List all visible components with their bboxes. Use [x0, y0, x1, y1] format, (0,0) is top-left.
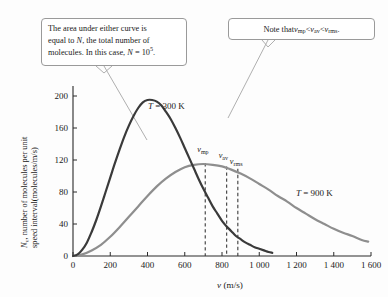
svg-text:vav: vav — [219, 151, 228, 161]
svg-text:0: 0 — [71, 260, 76, 270]
svg-text:Nv, number of molecules per un: Nv, number of molecules per unit — [20, 136, 30, 249]
series-label-900k: T = 900 K — [296, 188, 333, 198]
svg-text:200: 200 — [55, 91, 69, 101]
svg-text:160: 160 — [55, 123, 69, 133]
svg-text:400: 400 — [141, 260, 155, 270]
svg-text:200: 200 — [104, 260, 118, 270]
svg-text:600: 600 — [178, 260, 192, 270]
curve-300k — [73, 100, 272, 256]
svg-text:1 600: 1 600 — [361, 260, 382, 270]
svg-text:40: 40 — [59, 219, 69, 229]
svg-text:80: 80 — [59, 187, 69, 197]
svg-text:1 000: 1 000 — [249, 260, 270, 270]
y-axis-title: Nv, number of molecules per unitspeed in… — [20, 136, 39, 249]
svg-text:vmp: vmp — [197, 145, 208, 155]
speed-distribution-chart: 02004006008001 0001 2001 4001 600 040801… — [0, 0, 388, 297]
x-axis-title: v (m/s) — [217, 280, 243, 290]
callout-area-tail — [96, 66, 112, 73]
x-axis-ticks: 02004006008001 0001 2001 4001 600 — [71, 252, 382, 270]
figure-container: The area under either curve is equal to … — [0, 0, 388, 297]
svg-text:vrms: vrms — [230, 157, 243, 167]
svg-text:1 200: 1 200 — [286, 260, 307, 270]
svg-text:120: 120 — [55, 155, 69, 165]
callout-order-tail — [262, 40, 275, 47]
curve-900k — [73, 164, 368, 256]
svg-text:1 400: 1 400 — [324, 260, 345, 270]
y-axis-ticks: 04080120160200 — [55, 91, 78, 261]
svg-text:800: 800 — [215, 260, 229, 270]
velocity-markers — [205, 163, 238, 256]
svg-text:speed interval(molecules/m/s): speed interval(molecules/m/s) — [30, 147, 39, 248]
svg-text:0: 0 — [64, 251, 69, 261]
series-label-300k: T = 300 K — [148, 101, 185, 111]
